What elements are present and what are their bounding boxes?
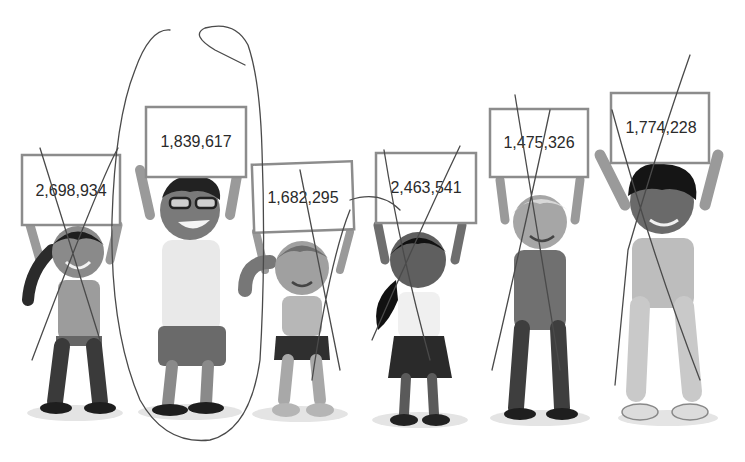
illustration-scene: 2,698,934 1,839,617 1,682,295 bbox=[0, 0, 745, 462]
sign-2: 1,839,617 bbox=[146, 107, 246, 177]
pen-annotations[interactable] bbox=[32, 26, 700, 440]
child-5 bbox=[500, 180, 580, 420]
child-2 bbox=[140, 170, 238, 416]
sign-5: 1,475,326 bbox=[490, 109, 588, 177]
sign-2-value: 1,839,617 bbox=[160, 133, 231, 150]
sign-1: 2,698,934 bbox=[22, 155, 120, 225]
sign-3-value: 1,682,295 bbox=[267, 189, 338, 206]
sign-3: 1,682,295 bbox=[252, 161, 354, 232]
sign-6-value: 1,774,228 bbox=[625, 119, 696, 136]
child-4 bbox=[376, 225, 462, 426]
sign-4-value: 2,463,541 bbox=[390, 179, 461, 196]
ground-shadows bbox=[27, 404, 718, 428]
sign-6: 1,774,228 bbox=[611, 93, 709, 163]
sign-5-value: 1,475,326 bbox=[503, 134, 574, 151]
